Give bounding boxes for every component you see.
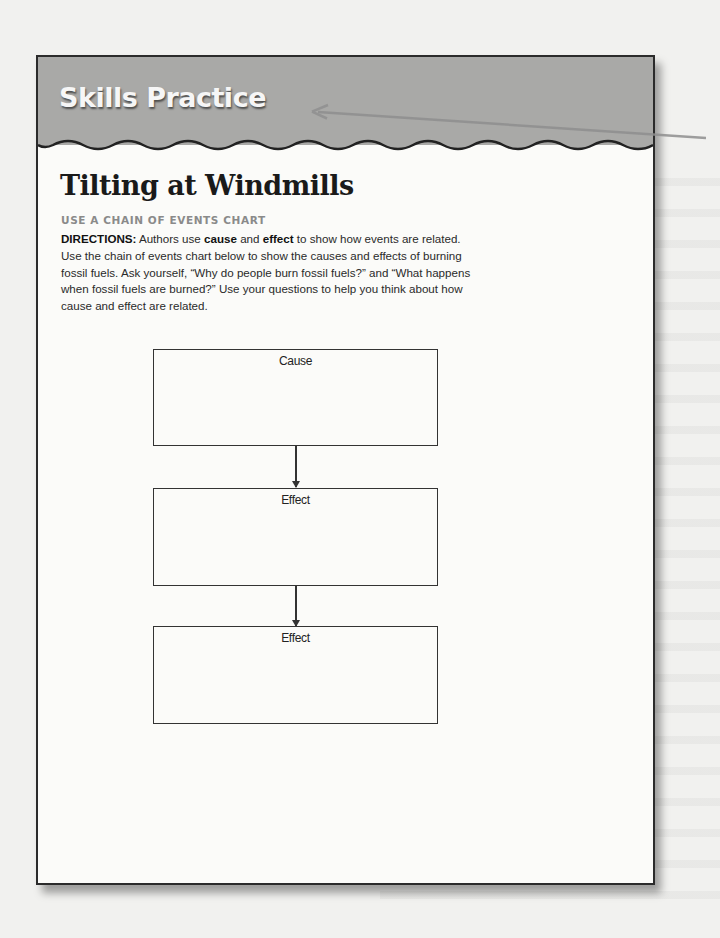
worksheet-page: Skills Practice Tilting at Windmills USE… [36,55,655,885]
keyword-effect: effect [263,232,294,245]
wavy-divider [38,131,653,155]
arrow-down-icon [295,586,297,626]
directions-part: Authors use [136,232,204,245]
chart-box-cause[interactable]: Cause [153,349,438,446]
worksheet-subtitle: USE A CHAIN OF EVENTS CHART [61,214,266,226]
box-label: Effect [154,631,437,645]
worksheet-title: Tilting at Windmills [60,170,354,201]
arrow-down-icon [295,446,297,487]
directions-lead: DIRECTIONS: [61,232,136,245]
chart-box-effect-2[interactable]: Effect [153,626,438,724]
box-label: Cause [154,354,437,368]
chart-box-effect-1[interactable]: Effect [153,488,438,586]
directions-text: DIRECTIONS: Authors use cause and effect… [61,231,481,315]
section-banner-title: Skills Practice [59,82,266,113]
directions-part: and [237,232,263,245]
box-label: Effect [154,493,437,507]
keyword-cause: cause [204,232,237,245]
